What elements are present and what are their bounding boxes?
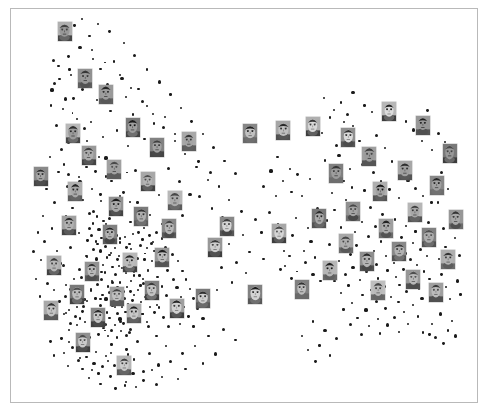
face-thumbnail[interactable] xyxy=(408,203,422,222)
face-thumbnail[interactable] xyxy=(123,253,137,272)
face-thumbnails-layer xyxy=(11,9,477,402)
face-thumbnail[interactable] xyxy=(150,138,164,157)
face-thumbnail[interactable] xyxy=(449,210,463,229)
face-thumbnail[interactable] xyxy=(360,252,374,271)
face-thumbnail[interactable] xyxy=(362,147,376,166)
face-thumbnail[interactable] xyxy=(141,172,155,191)
face-thumbnail[interactable] xyxy=(70,285,84,304)
face-thumbnail[interactable] xyxy=(103,225,117,244)
face-thumbnail[interactable] xyxy=(373,182,387,201)
face-thumbnail[interactable] xyxy=(196,289,210,308)
face-thumbnail[interactable] xyxy=(34,167,48,186)
face-thumbnail[interactable] xyxy=(272,224,286,243)
face-thumbnail[interactable] xyxy=(371,281,385,300)
face-thumbnail[interactable] xyxy=(78,69,92,88)
face-thumbnail[interactable] xyxy=(82,146,96,165)
face-thumbnail[interactable] xyxy=(346,202,360,221)
face-thumbnail[interactable] xyxy=(416,116,430,135)
face-thumbnail[interactable] xyxy=(341,128,355,147)
face-thumbnail[interactable] xyxy=(162,219,176,238)
face-thumbnail[interactable] xyxy=(134,207,148,226)
face-thumbnail[interactable] xyxy=(379,219,393,238)
face-thumbnail[interactable] xyxy=(392,242,406,261)
face-thumbnail[interactable] xyxy=(99,85,113,104)
face-thumbnail[interactable] xyxy=(155,248,169,267)
face-thumbnail[interactable] xyxy=(107,160,121,179)
face-thumbnail[interactable] xyxy=(382,102,396,121)
face-thumbnail[interactable] xyxy=(441,250,455,269)
face-thumbnail[interactable] xyxy=(170,299,184,318)
face-thumbnail[interactable] xyxy=(168,191,182,210)
face-thumbnail[interactable] xyxy=(398,161,412,180)
face-thumbnail[interactable] xyxy=(406,270,420,289)
face-thumbnail[interactable] xyxy=(220,217,234,236)
plot-frame xyxy=(10,8,478,403)
face-thumbnail[interactable] xyxy=(422,228,436,247)
face-thumbnail[interactable] xyxy=(110,287,124,306)
face-thumbnail[interactable] xyxy=(323,261,337,280)
face-thumbnail[interactable] xyxy=(68,182,82,201)
face-thumbnail[interactable] xyxy=(62,216,76,235)
face-thumbnail[interactable] xyxy=(66,124,80,143)
scatter-plot-figure xyxy=(0,0,493,413)
face-thumbnail[interactable] xyxy=(276,121,290,140)
face-thumbnail[interactable] xyxy=(430,176,444,195)
face-thumbnail[interactable] xyxy=(339,234,353,253)
face-thumbnail[interactable] xyxy=(243,124,257,143)
face-thumbnail[interactable] xyxy=(76,333,90,352)
face-thumbnail[interactable] xyxy=(329,164,343,183)
face-thumbnail[interactable] xyxy=(429,283,443,302)
face-thumbnail[interactable] xyxy=(145,281,159,300)
face-thumbnail[interactable] xyxy=(44,301,58,320)
face-thumbnail[interactable] xyxy=(312,209,326,228)
face-thumbnail[interactable] xyxy=(127,304,141,323)
face-thumbnail[interactable] xyxy=(295,280,309,299)
face-thumbnail[interactable] xyxy=(443,144,457,163)
face-thumbnail[interactable] xyxy=(117,356,131,375)
face-thumbnail[interactable] xyxy=(182,132,196,151)
face-thumbnail[interactable] xyxy=(126,118,140,137)
face-thumbnail[interactable] xyxy=(47,256,61,275)
face-thumbnail[interactable] xyxy=(85,262,99,281)
face-thumbnail[interactable] xyxy=(58,22,72,41)
face-thumbnail[interactable] xyxy=(109,197,123,216)
face-thumbnail[interactable] xyxy=(208,238,222,257)
face-thumbnail[interactable] xyxy=(91,308,105,327)
face-thumbnail[interactable] xyxy=(306,117,320,136)
face-thumbnail[interactable] xyxy=(248,285,262,304)
